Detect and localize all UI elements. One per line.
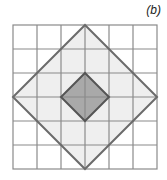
grid-diagram bbox=[0, 0, 167, 180]
grid-lines bbox=[13, 25, 157, 169]
